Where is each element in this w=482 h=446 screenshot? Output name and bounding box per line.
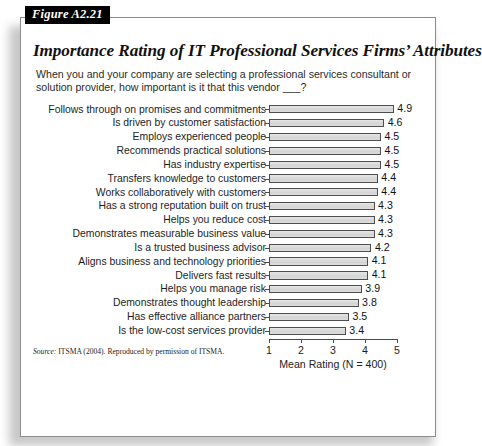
x-axis-tick — [269, 339, 270, 343]
bar-value-label: 4.9 — [397, 102, 412, 116]
category-label: Aligns business and technology prioritie… — [78, 255, 266, 269]
x-axis-tick — [397, 339, 398, 343]
figure-subtitle: When you and your company are selecting … — [36, 68, 428, 95]
category-label: Demonstrates measurable business value — [73, 227, 266, 241]
category-label: Has industry expertise — [163, 158, 266, 172]
bar-value-label: 4.1 — [372, 254, 387, 268]
category-label: Works collaboratively with customers — [96, 186, 266, 200]
bar — [269, 257, 368, 265]
bar-chart: Follows through on promises and commitme… — [21, 103, 437, 353]
chart-row: Aligns business and technology prioritie… — [21, 255, 437, 269]
bar-value-label: 3.8 — [362, 296, 377, 310]
bar — [269, 285, 362, 293]
bar — [269, 313, 349, 321]
x-axis-tick-label: 4 — [362, 344, 368, 356]
category-label: Is the low-cost services provider — [118, 324, 266, 338]
x-axis-tick-label: 5 — [394, 344, 400, 356]
bar-value-label: 4.2 — [375, 241, 390, 255]
category-label: Helps you manage risk — [160, 282, 266, 296]
bar-value-label: 4.5 — [385, 158, 400, 172]
chart-row: Is the low-cost services provider3.4 — [21, 325, 437, 339]
category-label: Employs experienced people — [133, 130, 266, 144]
category-label: Is a trusted business advisor — [134, 241, 266, 255]
bar-value-label: 3.5 — [353, 310, 368, 324]
category-label: Recommends practical solutions — [116, 144, 266, 158]
chart-row: Demonstrates measurable business value4.… — [21, 228, 437, 242]
chart-row: Is a trusted business advisor4.2 — [21, 241, 437, 255]
bar — [269, 105, 394, 113]
bar-value-label: 4.1 — [372, 268, 387, 282]
bar-value-label: 4.6 — [388, 116, 403, 130]
bar — [269, 147, 381, 155]
category-label: Has a strong reputation built on trust — [99, 199, 267, 213]
bar — [269, 327, 346, 335]
chart-row: Follows through on promises and commitme… — [21, 103, 437, 117]
bar — [269, 299, 359, 307]
category-label: Follows through on promises and commitme… — [48, 103, 266, 117]
x-axis-tick — [333, 339, 334, 343]
chart-row: Employs experienced people4.5 — [21, 131, 437, 145]
chart-row: Has industry expertise4.5 — [21, 158, 437, 172]
x-axis-tick-label: 1 — [266, 344, 272, 356]
x-axis-tick — [301, 339, 302, 343]
x-axis-title: Mean Rating (N = 400) — [269, 358, 397, 370]
category-label: Demonstrates thought leadership — [113, 296, 266, 310]
category-label: Has effective alliance partners — [127, 310, 266, 324]
bar — [269, 119, 384, 127]
x-axis-tick — [365, 339, 366, 343]
bar — [269, 244, 371, 252]
figure-panel: Importance Rating of IT Professional Ser… — [20, 17, 436, 437]
chart-row: Recommends practical solutions4.5 — [21, 145, 437, 159]
chart-row: Delivers fast results4.1 — [21, 269, 437, 283]
bar — [269, 188, 378, 196]
bar — [269, 216, 375, 224]
figure-number-tag: Figure A2.21 — [25, 6, 110, 24]
chart-row: Has effective alliance partners3.5 — [21, 311, 437, 325]
category-label: Is driven by customer satisfaction — [112, 116, 266, 130]
category-label: Helps you reduce cost — [163, 213, 266, 227]
chart-row: Helps you manage risk3.9 — [21, 283, 437, 297]
chart-row: Demonstrates thought leadership3.8 — [21, 297, 437, 311]
chart-row: Works collaboratively with customers4.4 — [21, 186, 437, 200]
chart-row: Transfers knowledge to customers4.4 — [21, 172, 437, 186]
category-label: Transfers knowledge to customers — [108, 172, 266, 186]
source-text: ITSMA (2004). Reproduced by permission o… — [58, 347, 224, 356]
bar — [269, 161, 381, 169]
bar-value-label: 4.3 — [378, 227, 393, 241]
x-axis-tick-label: 2 — [298, 344, 304, 356]
bar-value-label: 4.4 — [381, 171, 396, 185]
bar-value-label: 3.9 — [365, 282, 380, 296]
chart-row: Helps you reduce cost4.3 — [21, 214, 437, 228]
bar-value-label: 4.5 — [385, 144, 400, 158]
figure-title: Importance Rating of IT Professional Ser… — [33, 41, 433, 61]
chart-row: Has a strong reputation built on trust4.… — [21, 200, 437, 214]
bar-value-label: 4.3 — [378, 213, 393, 227]
source-label: Source: — [33, 347, 56, 356]
category-label: Delivers fast results — [175, 269, 266, 283]
bar — [269, 271, 368, 279]
bar-value-label: 4.5 — [385, 130, 400, 144]
bar — [269, 230, 375, 238]
bar-value-label: 3.4 — [349, 324, 364, 338]
bar — [269, 202, 375, 210]
bar — [269, 133, 381, 141]
bar-value-label: 4.3 — [378, 199, 393, 213]
bar-value-label: 4.4 — [381, 185, 396, 199]
x-axis-tick-label: 3 — [330, 344, 336, 356]
chart-row: Is driven by customer satisfaction4.6 — [21, 117, 437, 131]
bar — [269, 174, 378, 182]
source-note: Source: ITSMA (2004). Reproduced by perm… — [33, 347, 224, 356]
chart-rows: Follows through on promises and commitme… — [21, 103, 437, 338]
